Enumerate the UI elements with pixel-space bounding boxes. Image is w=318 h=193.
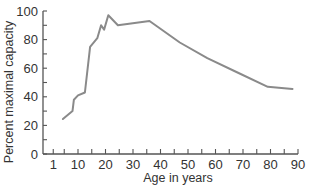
y-tick-label: 60	[24, 61, 38, 76]
x-tick-label: 10	[71, 157, 85, 172]
x-tick-label: 20	[98, 157, 112, 172]
x-tick-label: 90	[291, 157, 305, 172]
x-tick-label: 50	[181, 157, 195, 172]
y-tick-label: 80	[24, 32, 38, 47]
y-tick-label: 20	[24, 118, 38, 133]
x-axis-title: Age in years	[143, 171, 212, 185]
x-tick-label: 80	[263, 157, 277, 172]
line-chart: 020406080100 1102030405060708090 Age in …	[0, 0, 318, 193]
series-line	[63, 15, 293, 119]
x-tick-label: 30	[126, 157, 140, 172]
x-tick-label: 60	[208, 157, 222, 172]
x-tick-label: 1	[50, 157, 57, 172]
data-series	[63, 15, 293, 119]
x-tick-label: 40	[153, 157, 167, 172]
y-axis-title: Percent maximal capacity	[2, 20, 16, 163]
y-tick-label: 0	[31, 147, 38, 162]
x-axis: 1102030405060708090	[43, 149, 305, 172]
x-tick-label: 70	[236, 157, 250, 172]
y-tick-label: 100	[16, 4, 38, 19]
y-axis: 020406080100	[16, 4, 47, 162]
y-tick-label: 40	[24, 89, 38, 104]
